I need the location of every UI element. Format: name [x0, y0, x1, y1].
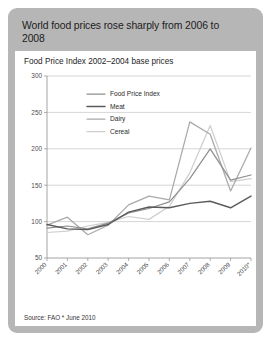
legend-label-food-price-index: Food Price Index: [110, 90, 161, 97]
x-axis-label: 2005: [135, 260, 150, 275]
line-chart: 5010015020025030020002001200220032004200…: [15, 70, 256, 302]
series-line-meat: [47, 196, 251, 230]
y-axis-label: 300: [31, 72, 42, 79]
x-axis-label: 2004: [115, 260, 130, 275]
chart-card: World food prices rose sharply from 2006…: [8, 8, 263, 333]
x-axis-label: 2000: [33, 260, 48, 275]
y-axis-label: 200: [31, 145, 42, 152]
page-title: World food prices rose sharply from 2006…: [22, 19, 244, 45]
chart-subtitle: Food Price Index 2002–2004 base prices: [24, 57, 173, 66]
x-axis-label: 2001: [53, 260, 68, 275]
legend-label-dairy: Dairy: [110, 115, 126, 123]
source-note: Source: FAO * June 2010: [24, 314, 95, 321]
x-axis-label: 2007: [176, 260, 191, 275]
x-axis-label: 2010*: [235, 260, 252, 277]
plot-area: 5010015020025030020002001200220032004200…: [15, 70, 256, 302]
series-line-cereal: [47, 126, 251, 233]
x-axis-label: 2003: [94, 260, 109, 275]
x-axis-label: 2006: [155, 260, 170, 275]
y-axis-label: 50: [35, 254, 43, 261]
chart-panel: Food Price Index 2002–2004 base prices 5…: [15, 51, 256, 326]
y-axis-label: 150: [31, 182, 42, 189]
x-axis-label: 2008: [196, 260, 211, 275]
legend-label-meat: Meat: [110, 103, 125, 110]
y-axis-label: 250: [31, 109, 42, 116]
y-axis-label: 100: [31, 218, 42, 225]
legend-label-cereal: Cereal: [110, 128, 130, 135]
x-axis-label: 2009: [217, 260, 232, 275]
x-axis-label: 2002: [74, 260, 89, 275]
series-line-dairy: [47, 122, 251, 235]
